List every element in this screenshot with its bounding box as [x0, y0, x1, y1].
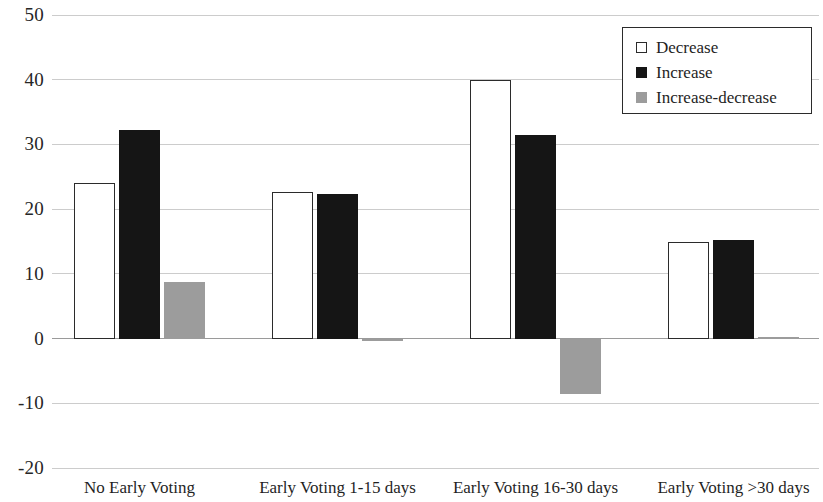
legend-item-increase-decrease: Increase-decrease: [636, 85, 811, 110]
bar-increase-decrease: [758, 337, 799, 339]
x-group-label: No Early Voting: [40, 478, 240, 497]
chart-legend: Decrease Increase Increase-decrease: [622, 27, 812, 114]
bar-decrease: [668, 242, 709, 338]
open-square-icon: [636, 42, 647, 53]
bar-increase: [317, 194, 358, 338]
legend-item-decrease: Decrease: [636, 35, 811, 60]
bar-increase-decrease: [164, 282, 205, 338]
bar-decrease: [272, 192, 313, 339]
x-group-label: Early Voting 16-30 days: [436, 478, 636, 497]
legend-item-increase: Increase: [636, 60, 811, 85]
bar-decrease: [74, 183, 115, 338]
bar-increase: [515, 135, 556, 339]
bar-increase: [713, 240, 754, 338]
legend-label-increase-decrease: Increase-decrease: [656, 89, 777, 106]
legend-label-decrease: Decrease: [656, 39, 718, 56]
x-group-label: Early Voting 1-15 days: [238, 478, 438, 497]
filled-gray-square-icon: [636, 92, 647, 103]
bar-increase-decrease: [362, 339, 403, 341]
bar-increase: [119, 130, 160, 339]
bar-increase-decrease: [560, 339, 601, 394]
filled-black-square-icon: [636, 67, 647, 78]
bar-decrease: [470, 80, 511, 339]
bar-chart: 50403020100-10-20 No Early VotingEarly V…: [0, 0, 823, 502]
legend-label-increase: Increase: [656, 64, 713, 81]
x-group-label: Early Voting >30 days: [634, 478, 823, 497]
